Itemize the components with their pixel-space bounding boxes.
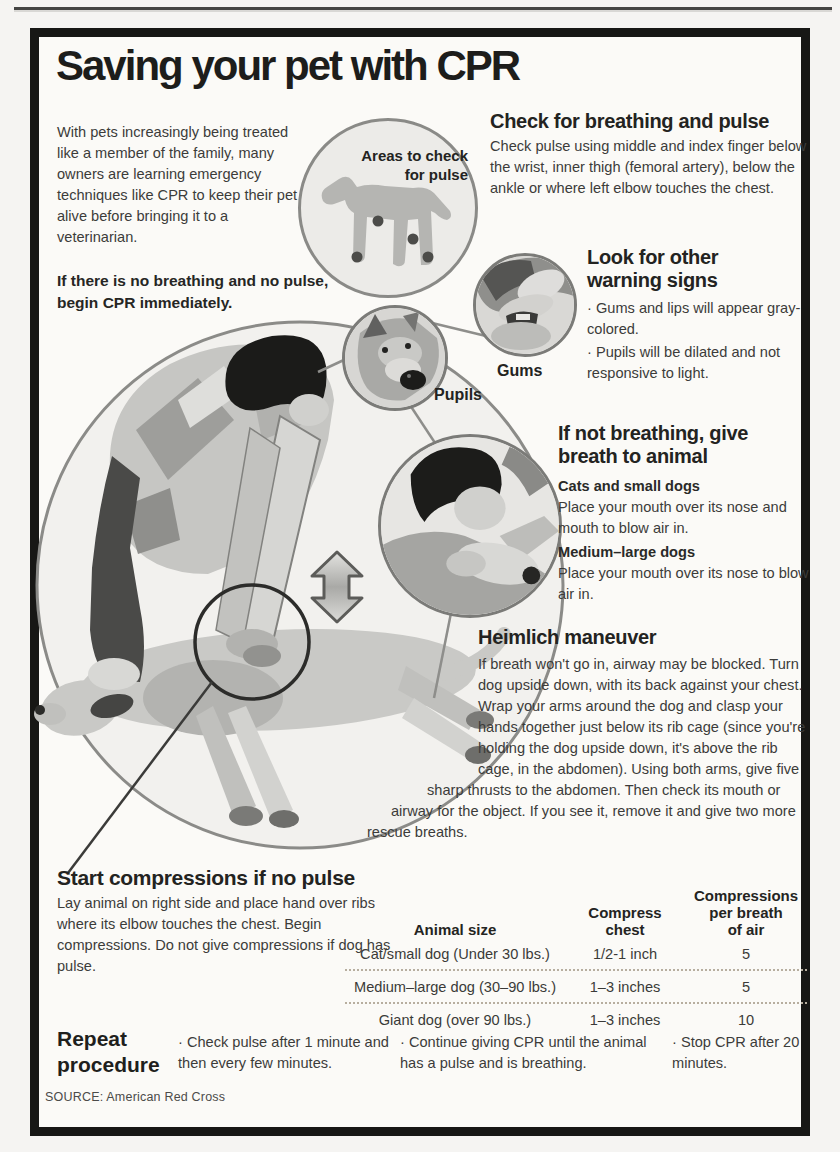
cell-compress-chest: 1–3 inches [565,979,685,995]
text-wrap-spacer [345,801,391,822]
section-body-heimlich: If breath won't go in, airway may be blo… [345,654,811,843]
pulse-point-dot [373,216,384,227]
cell-animal-size: Medium–large dog (30–90 lbs.) [345,979,565,995]
intro-paragraph: With pets increasingly being treated lik… [57,122,309,248]
pupils-photo-circle [342,305,448,411]
pulse-point-dot [408,234,419,245]
column-header-compressions-per-breath: Compressions per breath of air [685,887,807,938]
warning-bullet: · Pupils will be dilated and not respons… [587,342,819,384]
scanned-infographic-page: Saving your pet with CPR With pets incre… [0,0,840,1152]
cpr-urgency-note: If there is no breathing and no pulse, b… [57,270,329,314]
section-title-compressions: Start compressions if no pulse [57,866,355,889]
table-header-row: Animal size Compress chest Compressions … [345,878,807,938]
warning-signs-list: · Gums and lips will appear gray- colore… [587,298,819,384]
rescue-breath-illustration [381,437,559,615]
compression-table: Animal size Compress chest Compressions … [345,878,807,1035]
dog-nose [522,567,540,585]
cell-compressions-count: 10 [685,1012,807,1028]
cell-compress-chest: 1–3 inches [565,1012,685,1028]
gums-label: Gums [497,362,542,380]
dog-silhouette [322,177,451,266]
table-row: Giant dog (over 90 lbs.) 1–3 inches 10 [345,1004,807,1035]
cell-compress-chest: 1/2-1 inch [565,946,685,962]
source-credit: SOURCE: American Red Cross [45,1090,225,1104]
cell-compressions-count: 5 [685,979,807,995]
warning-bullet: · Gums and lips will appear gray- colore… [587,298,819,340]
repeat-bullet-continue-cpr: · Continue giving CPR until the animal h… [400,1032,668,1074]
section-title-warning-signs: Look for other warning signs [587,246,718,292]
pupils-label: Pupils [434,386,482,404]
text-wrap-spacer [345,780,427,801]
rescuer-face [454,486,505,530]
subsection-body-medium-dogs: Place your mouth over its nose to blow a… [558,563,814,605]
repeat-bullet-stop-cpr: · Stop CPR after 20 minutes. [672,1032,810,1074]
pupils-illustration [345,308,445,408]
subsection-title-medium-dogs: Medium–large dogs [558,542,814,563]
rescuer-hand [446,551,486,577]
column-header-animal-size: Animal size [345,921,565,938]
gums-photo-circle [473,253,577,357]
section-title-breathing-pulse: Check for breathing and pulse [490,110,769,133]
text-wrap-spacer [345,822,367,843]
pulse-areas-label: Areas to check for pulse [330,146,468,184]
dog-nose [35,705,45,715]
page-title: Saving your pet with CPR [56,42,519,90]
rescuer-face [289,394,329,426]
pulse-point-dot [352,252,363,263]
subsection-body-cats: Place your mouth over its nose and mouth… [558,497,814,539]
subsection-title-cats: Cats and small dogs [558,476,814,497]
column-header-compress-chest: Compress chest [565,904,685,938]
pulse-point-dot [423,252,434,263]
table-row: Cat/small dog (Under 30 lbs.) 1/2-1 inch… [345,938,807,971]
cell-animal-size: Giant dog (over 90 lbs.) [345,1012,565,1028]
section-title-repeat-procedure: Repeat procedure [57,1026,160,1078]
rescuer-foot [88,658,140,690]
repeat-bullet-check-pulse: · Check pulse after 1 minute and then ev… [178,1032,400,1074]
section-heimlich: Heimlich maneuver If breath won't go in,… [345,626,811,843]
give-breath-subsections: Cats and small dogs Place your mouth ove… [558,476,814,605]
page-top-rule [14,7,832,10]
section-title-heimlich: Heimlich maneuver [478,626,811,649]
cell-animal-size: Cat/small dog (Under 30 lbs.) [345,946,565,962]
cell-compressions-count: 5 [685,946,807,962]
table-row: Medium–large dog (30–90 lbs.) 1–3 inches… [345,971,807,1004]
gums-illustration [476,256,574,354]
rescue-breath-photo-circle [378,434,562,618]
dog-nose [400,370,426,390]
section-title-give-breath: If not breathing, give breath to animal [558,422,748,468]
text-wrap-spacer [345,654,478,780]
section-body-breathing-pulse: Check pulse using middle and index finge… [490,136,812,199]
